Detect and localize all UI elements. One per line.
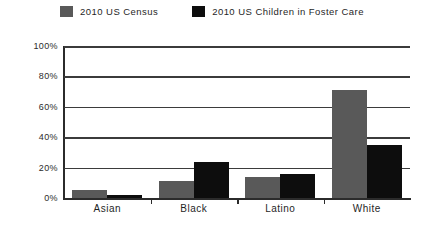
- y-axis-tick-label: 100%: [33, 41, 58, 51]
- y-axis-labels: 0%20%40%60%80%100%: [0, 46, 58, 198]
- x-axis-category-labels: AsianBlackLatinoWhite: [64, 203, 410, 221]
- x-axis-category-label-black: Black: [180, 203, 207, 214]
- bar-black-census: [159, 181, 194, 198]
- x-axis-category-label-latino: Latino: [265, 203, 295, 214]
- x-axis-category-label-asian: Asian: [93, 203, 121, 214]
- y-axis-tick-label: 40%: [39, 132, 58, 142]
- legend-swatch-census-icon: [60, 6, 73, 17]
- bar-white-census: [332, 90, 367, 198]
- bar-white-foster-care: [367, 145, 402, 198]
- bar-latino-census: [245, 177, 280, 198]
- legend-swatch-foster-care-icon: [192, 6, 205, 17]
- y-axis-tick-label: 20%: [39, 163, 58, 173]
- chart-legend: 2010 US Census 2010 US Children in Foste…: [0, 0, 424, 22]
- bar-group-container: [64, 46, 410, 198]
- bar-latino-foster-care: [280, 174, 315, 198]
- bar-asian-census: [72, 190, 107, 198]
- bar-black-foster-care: [194, 162, 229, 198]
- legend-item-foster-care: 2010 US Children in Foster Care: [192, 6, 364, 17]
- y-axis-tick-label: 60%: [39, 102, 58, 112]
- x-axis-category-label-white: White: [353, 203, 381, 214]
- legend-item-census: 2010 US Census: [60, 6, 158, 17]
- legend-label-census: 2010 US Census: [80, 6, 158, 17]
- y-axis-tick-label: 0%: [44, 193, 58, 203]
- y-axis-tick-label: 80%: [39, 71, 58, 81]
- legend-label-foster-care: 2010 US Children in Foster Care: [212, 6, 364, 17]
